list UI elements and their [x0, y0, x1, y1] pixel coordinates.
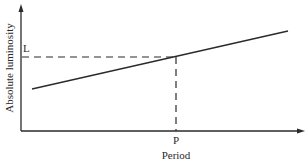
x-axis-arrow-icon — [297, 129, 305, 134]
y-axis-label: Absolute luminosity — [3, 23, 15, 113]
y-marker-label: L — [23, 42, 30, 54]
period-luminosity-line — [32, 31, 288, 89]
x-marker-label: P — [173, 134, 179, 146]
period-luminosity-diagram: L P Period Absolute luminosity — [0, 0, 307, 165]
x-axis-label: Period — [162, 149, 191, 161]
y-axis-arrow-icon — [19, 4, 24, 12]
